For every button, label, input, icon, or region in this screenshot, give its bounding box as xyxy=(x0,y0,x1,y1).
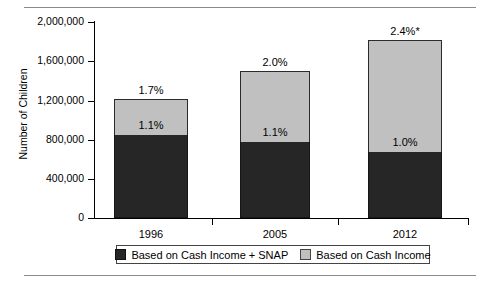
x-tick-2 xyxy=(338,218,339,225)
y-tick-label-400000: 400,000 xyxy=(22,173,84,184)
bar-inner-label-2005: 1.1% xyxy=(240,126,310,138)
y-tick-label-2000000: 2,000,000 xyxy=(22,16,84,27)
legend-label-cash-income: Based on Cash Income xyxy=(316,249,430,261)
y-tick-1600000 xyxy=(88,61,94,62)
bar-2005: 1.1% xyxy=(240,71,310,218)
bar-2012: 1.0% xyxy=(368,40,442,218)
y-tick-800000 xyxy=(88,140,94,141)
bar-total-label-2012: 2.4%* xyxy=(368,25,442,37)
bar-segment-cash-income-snap-2012 xyxy=(368,152,442,218)
y-tick-label-0: 0 xyxy=(22,212,84,223)
bar-total-label-1996: 1.7% xyxy=(114,84,188,96)
legend-item-cash-income[interactable]: Based on Cash Income xyxy=(300,249,430,261)
y-tick-400000 xyxy=(88,179,94,180)
x-axis-label-2005: 2005 xyxy=(240,228,310,240)
bar-segment-cash-income-snap-2005 xyxy=(240,142,310,218)
x-tick-3 xyxy=(468,218,469,225)
figure-container: Number of Children 2,000,000 1,600,000 1… xyxy=(0,0,484,282)
bar-1996: 1.1% xyxy=(114,99,188,218)
bottom-divider-rule xyxy=(24,275,476,276)
legend-label-cash-income-snap: Based on Cash Income + SNAP xyxy=(131,249,288,261)
y-tick-0 xyxy=(88,218,94,219)
bar-segment-cash-income-snap-1996 xyxy=(114,135,188,218)
x-axis-label-2012: 2012 xyxy=(368,228,442,240)
y-tick-1200000 xyxy=(88,101,94,102)
legend-item-cash-income-snap[interactable]: Based on Cash Income + SNAP xyxy=(115,249,288,261)
x-tick-1 xyxy=(212,218,213,225)
y-tick-label-1200000: 1,200,000 xyxy=(22,95,84,106)
y-tick-label-1600000: 1,600,000 xyxy=(22,55,84,66)
top-divider-rule xyxy=(24,7,476,8)
y-axis-line xyxy=(94,21,95,219)
y-tick-label-800000: 800,000 xyxy=(22,134,84,145)
legend-swatch-dark-icon xyxy=(115,249,126,260)
legend-swatch-light-icon xyxy=(300,249,311,260)
bar-inner-label-1996: 1.1% xyxy=(114,119,188,131)
x-axis-label-1996: 1996 xyxy=(114,228,188,240)
y-tick-2000000 xyxy=(88,22,94,23)
chart-legend: Based on Cash Income + SNAP Based on Cas… xyxy=(116,245,430,264)
x-axis-line xyxy=(94,218,469,219)
bar-inner-label-2012: 1.0% xyxy=(368,136,442,148)
bar-total-label-2005: 2.0% xyxy=(240,56,310,68)
